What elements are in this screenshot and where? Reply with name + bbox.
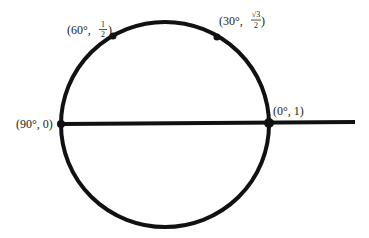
point-0	[264, 118, 274, 128]
diameter-line	[61, 122, 355, 124]
svg-text:2: 2	[254, 21, 258, 30]
svg-text:1: 1	[101, 20, 105, 29]
svg-text:(30°,: (30°,	[219, 14, 243, 28]
label-60: (60°, 1 2 )	[67, 20, 112, 39]
svg-text:(60°,: (60°,	[67, 23, 91, 37]
svg-text:): )	[108, 23, 112, 37]
point-90	[57, 120, 65, 128]
label-90: (90°, 0)	[16, 117, 53, 131]
svg-text:): )	[261, 14, 265, 28]
svg-text:√3: √3	[252, 10, 260, 19]
label-0: (0°, 1)	[273, 104, 304, 118]
point-30	[214, 34, 221, 41]
circle-diagram: (60°, 1 2 ) (30°, √3 2 ) (90°, 0) (0°, 1…	[0, 0, 369, 238]
label-30: (30°, √3 2 )	[219, 10, 265, 30]
svg-text:2: 2	[101, 30, 105, 39]
